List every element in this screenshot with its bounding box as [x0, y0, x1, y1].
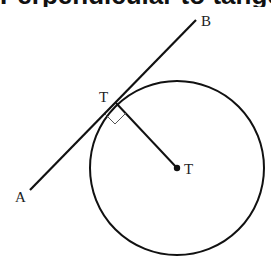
tangent-diagram: B T T A	[0, 0, 271, 267]
label-b: B	[201, 13, 211, 29]
tangent-line-ab	[30, 20, 196, 190]
radius-line	[116, 103, 177, 168]
label-tangent-point: T	[99, 89, 108, 105]
center-point	[174, 165, 180, 171]
label-center: T	[184, 161, 193, 177]
label-a: A	[15, 189, 26, 205]
